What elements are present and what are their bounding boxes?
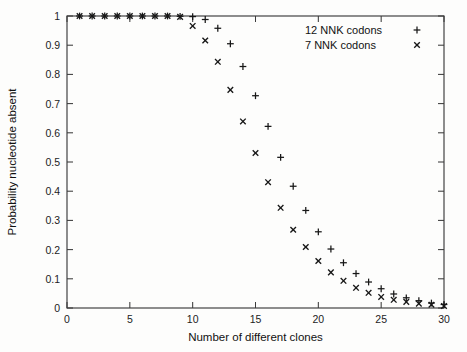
y-tick-label: 1: [54, 10, 60, 22]
y-tick-label: 0: [54, 302, 60, 314]
y-axis-title: Probability nucleotide absent: [6, 88, 18, 236]
y-tick-label: 0.3: [45, 214, 60, 226]
x-tick-label: 30: [438, 313, 450, 325]
series-2-points: [77, 13, 447, 309]
x-tick-label: 10: [187, 313, 199, 325]
legend-marker-1: [414, 27, 421, 34]
x-tick-label: 0: [64, 313, 70, 325]
x-tick-label: 20: [312, 313, 324, 325]
y-tick-label: 0.5: [45, 156, 60, 168]
y-tick-label: 0.1: [45, 273, 60, 285]
y-tick-label: 0.6: [45, 127, 60, 139]
y-tick-label: 0.4: [45, 185, 60, 197]
legend-marker-2: [414, 42, 420, 48]
x-tick-label: 15: [250, 313, 262, 325]
scatter-plot: 05101520253000.10.20.30.40.50.60.70.80.9…: [0, 0, 467, 352]
y-tick-label: 0.8: [45, 68, 60, 80]
legend-label-2: 7 NNK codons: [305, 39, 376, 51]
x-axis-title: Number of different clones: [188, 331, 323, 343]
y-tick-label: 0.9: [45, 39, 60, 51]
x-tick-label: 25: [375, 313, 387, 325]
plot-frame: [67, 16, 444, 308]
series-1-points: [76, 13, 447, 308]
y-tick-label: 0.7: [45, 98, 60, 110]
y-tick-label: 0.2: [45, 244, 60, 256]
legend-label-1: 12 NNK codons: [305, 24, 383, 36]
x-tick-label: 5: [127, 313, 133, 325]
chart-figure: 05101520253000.10.20.30.40.50.60.70.80.9…: [0, 0, 467, 352]
